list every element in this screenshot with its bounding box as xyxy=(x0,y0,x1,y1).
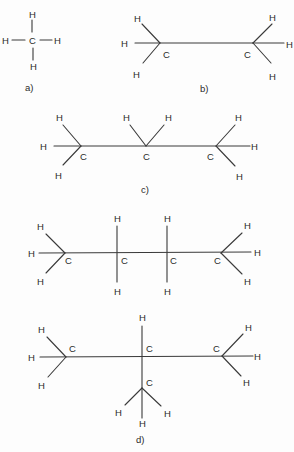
label-c: c) xyxy=(141,184,149,195)
atom-h: H xyxy=(286,39,293,50)
atom-c: C xyxy=(29,35,36,46)
atom-h: H xyxy=(55,170,62,181)
atom-c: C xyxy=(146,377,153,388)
atom-c: C xyxy=(69,343,76,354)
bond xyxy=(130,125,146,146)
atom-h: H xyxy=(244,276,251,287)
atom-h: H xyxy=(244,220,251,231)
atom-h: H xyxy=(245,322,252,333)
atom-c: C xyxy=(121,255,128,266)
bond xyxy=(142,24,160,43)
molecule-d-n-butane: H H H C H C H H C H C H H H xyxy=(28,213,261,297)
bond xyxy=(142,388,161,406)
atom-h: H xyxy=(164,408,171,419)
structural-formulas-figure: H H C H H a) H H H C C H H H b) H H H C xyxy=(0,0,294,452)
molecule-a-methane: H H C H H a) xyxy=(2,9,61,93)
bond xyxy=(222,356,241,376)
atom-h: H xyxy=(134,13,141,24)
atom-h: H xyxy=(133,69,140,80)
atom-c: C xyxy=(214,255,221,266)
atom-h: H xyxy=(114,213,121,224)
atom-h: H xyxy=(269,12,276,23)
atom-h: H xyxy=(164,213,171,224)
atom-h: H xyxy=(54,35,61,46)
bond xyxy=(63,125,81,146)
bond xyxy=(222,334,243,356)
atom-c: C xyxy=(143,151,150,162)
atom-h: H xyxy=(30,61,37,72)
atom-h: H xyxy=(37,276,44,287)
atom-h: H xyxy=(56,112,63,123)
molecule-d-isobutane: H H H C H C C H H H C H H H d) xyxy=(28,312,261,445)
atom-h: H xyxy=(28,352,35,363)
bond xyxy=(253,43,271,63)
bond xyxy=(221,253,242,274)
bond xyxy=(125,388,142,405)
atom-c: C xyxy=(146,343,153,354)
atom-c: C xyxy=(163,49,170,60)
atom-h: H xyxy=(37,221,44,232)
atom-h: H xyxy=(236,171,243,182)
atom-h: H xyxy=(114,286,121,297)
atom-h: H xyxy=(40,141,47,152)
atom-h: H xyxy=(243,377,250,388)
diagram-svg: H H C H H a) H H H C C H H H b) H H H C xyxy=(0,0,294,452)
atom-h: H xyxy=(123,112,130,123)
atom-h: H xyxy=(121,38,128,49)
bond xyxy=(216,125,235,146)
atom-c: C xyxy=(244,49,251,60)
label-b: b) xyxy=(200,83,208,94)
atom-h: H xyxy=(115,407,122,418)
atom-h: H xyxy=(38,324,45,335)
molecule-c-propane: H H H C H H C C H H H c) xyxy=(40,112,258,195)
bond xyxy=(46,234,65,253)
bond xyxy=(40,356,253,357)
atom-h: H xyxy=(251,141,258,152)
atom-h: H xyxy=(254,247,261,258)
atom-c: C xyxy=(207,151,214,162)
label-a: a) xyxy=(25,82,33,93)
atom-c: C xyxy=(213,343,220,354)
atom-h: H xyxy=(254,351,261,362)
bond xyxy=(221,233,242,253)
atom-h: H xyxy=(28,248,35,259)
bond xyxy=(47,337,66,357)
atom-h: H xyxy=(29,9,36,20)
bond xyxy=(63,146,81,165)
atom-h: H xyxy=(164,286,171,297)
atom-c: C xyxy=(80,151,87,162)
atom-h: H xyxy=(139,312,146,323)
label-d: d) xyxy=(136,434,144,445)
bond xyxy=(48,357,66,377)
bond xyxy=(216,146,235,166)
atom-h: H xyxy=(165,112,172,123)
atom-h: H xyxy=(2,35,9,46)
bond xyxy=(39,252,251,253)
atom-c: C xyxy=(170,255,177,266)
bond xyxy=(143,43,160,63)
bond xyxy=(46,253,65,273)
atom-h: H xyxy=(139,418,146,429)
atom-c: C xyxy=(65,255,72,266)
atom-h: H xyxy=(38,380,45,391)
bond xyxy=(146,125,164,146)
atom-h: H xyxy=(235,112,242,123)
bond xyxy=(253,24,272,43)
molecule-b-ethane: H H H C C H H H b) xyxy=(121,12,293,94)
atom-h: H xyxy=(269,71,276,82)
